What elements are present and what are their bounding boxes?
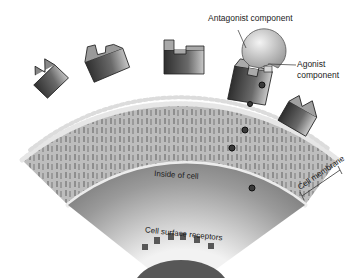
agonist-label-line2: component [297, 70, 340, 80]
antagonist-leader-line [238, 30, 246, 48]
agonist-component [264, 66, 272, 72]
cell-receptor-diagram: Antagonist component Agonist component I… [0, 0, 363, 278]
receptor-1 [25, 53, 72, 101]
receptor-2 [82, 38, 131, 83]
receptor-3 [164, 40, 204, 74]
antagonist-component [242, 29, 286, 68]
agonist-label-line1: Agonist [297, 59, 326, 69]
antagonist-label: Antagonist component [208, 13, 293, 23]
